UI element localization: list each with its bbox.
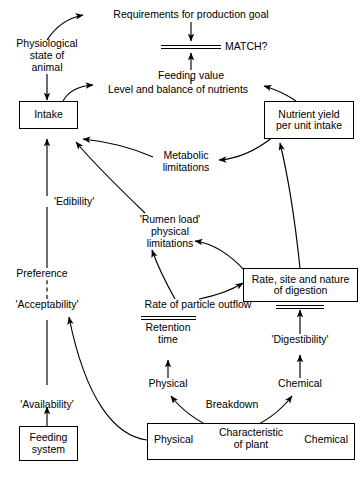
node-physiological-line2: state of (30, 50, 64, 61)
digestion-balance-symbol (276, 305, 324, 309)
node-requirements: Requirements for production goal (113, 9, 268, 20)
node-rate-site-box: Rate, site and nature of digestion (243, 268, 358, 302)
node-level-and-balance: Level and balance of nutrients (108, 84, 248, 95)
arrow-plant-to-acceptability (69, 317, 147, 440)
node-rumen-load-line3: limitations (147, 238, 194, 249)
node-physiological-line3: animal (32, 62, 63, 73)
arrow-particleoutflow-to-ratesite (199, 283, 243, 299)
match-balance-symbol (161, 45, 221, 49)
node-retention-line2: time (158, 334, 178, 345)
node-feeding-system-line1: Feeding (30, 432, 68, 443)
node-nutrient-yield-line2: per unit intake (276, 120, 342, 131)
arrow-ratesite-to-nutrientyield (280, 143, 300, 268)
arrow-nutrientyield-to-metabolic (219, 137, 273, 160)
node-intake-box: Intake (19, 101, 78, 129)
flow-diagram: Requirements for production goal MATCH? … (0, 0, 362, 477)
arrow-particleoutflow-to-rumenload (152, 250, 175, 299)
arrow-intake-to-level (63, 85, 93, 101)
node-preference: Preference (16, 268, 67, 279)
node-rate-site-line2: of digestion (274, 285, 328, 296)
node-retention-line1: Retention (146, 322, 191, 333)
arrow-metabolic-to-intake (83, 139, 153, 157)
node-physical-middle: Physical (148, 378, 187, 389)
node-plant-box: Physical Characteristic of plant Chemica… (147, 423, 355, 460)
node-breakdown: Breakdown (206, 399, 259, 410)
node-chemical-middle: Chemical (278, 378, 322, 389)
node-particle-outflow: Rate of particle outflow (145, 299, 252, 310)
retention-fraction-bar (141, 316, 196, 320)
node-edibility: 'Edibility' (54, 196, 94, 207)
node-rumen-load-line1: 'Rumen load' (140, 214, 201, 225)
node-metabolic-line2: limitations (163, 162, 210, 173)
node-feeding-system-box: Feeding system (19, 426, 78, 461)
node-availability: 'Availability' (20, 399, 73, 410)
node-feeding-value: Feeding value (158, 70, 224, 81)
arrow-ratesite-to-rumenload (195, 241, 246, 272)
arrow-nutrientyield-to-level (264, 86, 296, 101)
node-metabolic-line1: Metabolic (164, 150, 209, 161)
node-acceptability: 'Acceptability' (16, 299, 79, 310)
node-physiological-line1: Physiological (16, 38, 77, 49)
node-nutrient-yield-box: Nutrient yield per unit intake (264, 101, 354, 139)
node-feeding-system-line2: system (32, 444, 65, 455)
node-intake-label: Intake (34, 109, 63, 120)
node-plant-right-label: Chemical (304, 434, 348, 445)
node-rumen-load-line2: physical (151, 226, 189, 237)
node-match-label: MATCH? (225, 41, 267, 52)
node-digestibility: 'Digestibility' (271, 334, 328, 345)
